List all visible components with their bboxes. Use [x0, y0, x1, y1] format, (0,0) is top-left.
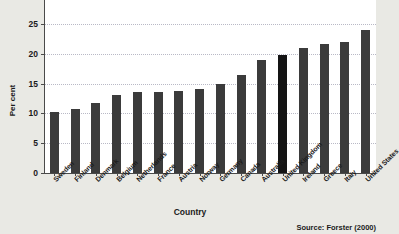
- y-tick-label: 5: [0, 138, 38, 148]
- bar-austria: [174, 91, 183, 173]
- bar-australia: [257, 60, 266, 173]
- bars-layer: [44, 0, 376, 173]
- bar-greece: [320, 44, 329, 173]
- bar-italy: [340, 42, 349, 173]
- bar-denmark: [91, 103, 100, 173]
- source-note: Source: Forster (2000): [296, 223, 376, 232]
- y-tick-mark: [41, 173, 44, 174]
- y-tick-label: 0: [0, 168, 38, 178]
- bar-norway: [195, 89, 204, 173]
- y-tick-label: 20: [0, 49, 38, 59]
- y-tick-label: 15: [0, 79, 38, 89]
- bar-germany: [216, 84, 225, 174]
- x-axis-title: Country: [0, 207, 380, 217]
- bar-sweden: [50, 112, 59, 173]
- y-tick-label: 10: [0, 108, 38, 118]
- y-axis-ticks: 051015202530: [0, 0, 40, 234]
- bar-united-kingdom: [278, 55, 287, 173]
- y-axis-title: Per cent: [8, 71, 17, 131]
- bar-united-states: [361, 30, 370, 173]
- y-tick-label: 25: [0, 19, 38, 29]
